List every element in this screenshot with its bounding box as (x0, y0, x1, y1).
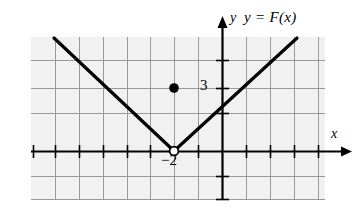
graph-canvas (0, 0, 357, 208)
y-value-label-three: 3 (200, 77, 208, 94)
grid-background (31, 37, 325, 200)
x-value-label-minus-two: −2 (161, 152, 177, 169)
filled-circle-marker (169, 83, 179, 93)
function-graph-figure: y = F(x) y x 3 −2 (0, 0, 357, 208)
curve-label: y = F(x) (244, 9, 297, 26)
y-axis-label: y (230, 10, 236, 26)
x-axis-label: x (331, 126, 337, 142)
